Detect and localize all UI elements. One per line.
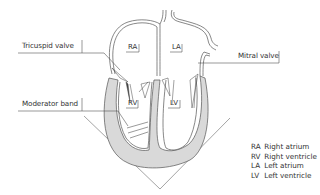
legend-item: RA Right atrium (251, 142, 317, 152)
chamber-label-lv: LV (170, 100, 178, 107)
chamber-label-la: LA (172, 44, 181, 51)
atria (109, 10, 218, 76)
chamber-label-rv: RV (128, 100, 137, 107)
legend-text: Right atrium (264, 142, 309, 151)
legend-item: RV Right ventricle (251, 152, 317, 162)
legend-abbr: LV (251, 171, 262, 181)
chamber-label-ra: RA (128, 44, 137, 51)
callout-mitral-valve: Mitral valve (238, 51, 279, 60)
legend-text: Right ventricle (264, 152, 317, 161)
legend-abbr: RA (251, 142, 262, 152)
legend-text: Left atrium (264, 161, 304, 170)
legend-item: LV Left ventricle (251, 171, 317, 181)
legend-item: LA Left atrium (251, 161, 317, 171)
legend-abbr: LA (251, 161, 262, 171)
callout-moderator-band: Moderator band (22, 99, 78, 108)
legend-text: Left ventricle (264, 171, 311, 180)
callout-tricuspid-valve: Tricuspid valve (22, 41, 74, 50)
legend-abbr: RV (251, 152, 262, 162)
legend: RA Right atrium RV Right ventricle LA Le… (251, 142, 317, 180)
